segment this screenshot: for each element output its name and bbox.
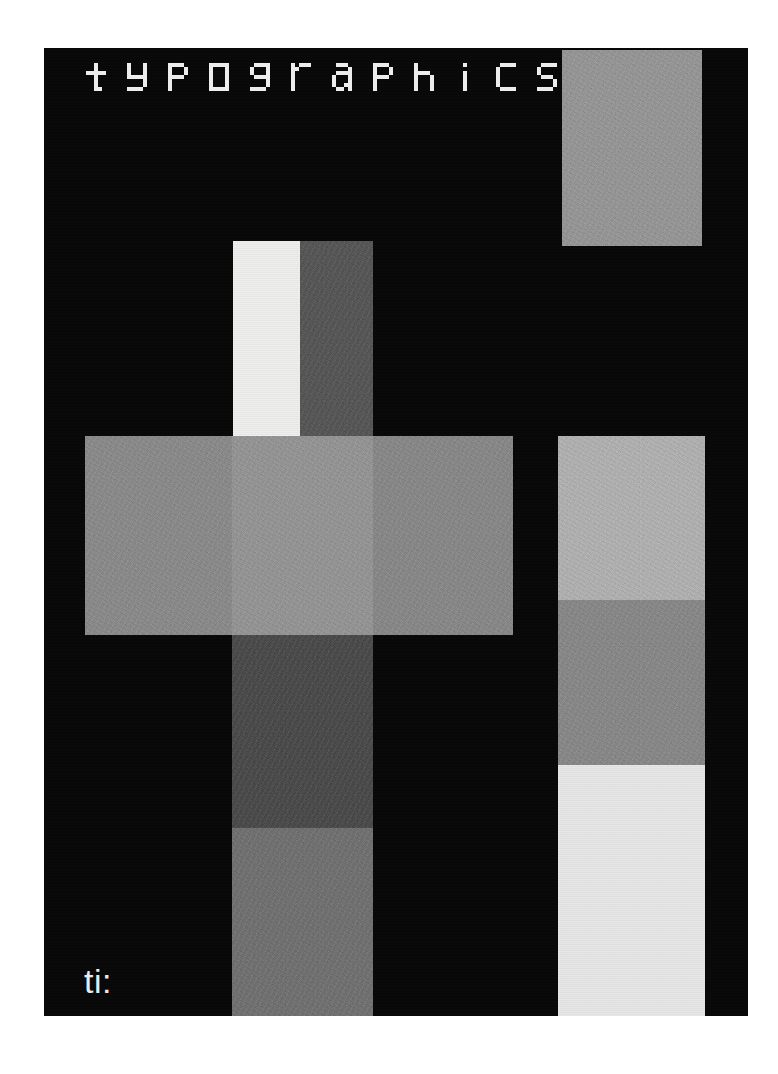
top-right-grey-block <box>562 50 702 246</box>
headline-glyph-c-10 <box>496 63 516 91</box>
poster-headline <box>86 63 578 91</box>
headline-glyph-s-11 <box>537 63 557 91</box>
poster-canvas: ti: <box>0 0 778 1074</box>
headline-glyph-o-3 <box>209 63 229 91</box>
right-column-medium-block <box>558 600 705 765</box>
headline-glyph-h-8 <box>414 63 434 91</box>
right-column-light-block <box>558 436 705 600</box>
headline-glyph-t-0 <box>86 63 106 91</box>
white-column-block <box>233 241 300 437</box>
headline-glyph-p-7 <box>373 63 393 91</box>
middle-column-dark-block <box>232 635 373 828</box>
middle-column-lower-grey-block <box>232 828 373 1016</box>
center-band-middle-segment <box>232 436 373 635</box>
headline-glyph-y-1 <box>127 63 147 91</box>
headline-glyph-r-5 <box>291 63 311 91</box>
headline-glyph-i-9 <box>455 63 475 91</box>
center-band-left-segment <box>85 436 232 635</box>
right-column-near-white-block <box>558 765 705 1016</box>
headline-glyph-p-2 <box>168 63 188 91</box>
headline-glyph-g-4 <box>250 63 270 91</box>
headline-glyph-a-6 <box>332 63 352 91</box>
dark-grey-column-upper-block <box>300 241 373 437</box>
center-band-right-segment <box>373 436 513 635</box>
poster-plate: ti: <box>44 48 748 1016</box>
poster-footer-mark: ti: <box>84 962 112 1001</box>
